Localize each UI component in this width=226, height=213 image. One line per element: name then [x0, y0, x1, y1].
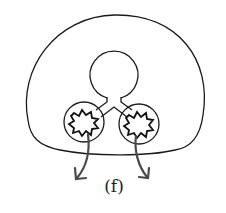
right-starburst-icon: [124, 112, 153, 138]
left-starburst-icon: [69, 110, 98, 136]
figure-label: (f): [104, 176, 124, 196]
y-shaped-tube: [96, 97, 132, 117]
left-circle: [64, 102, 104, 142]
central-circle: [90, 51, 138, 98]
right-circle: [119, 104, 159, 144]
diagram-canvas: (f): [0, 0, 226, 213]
outer-membrane: [26, 15, 204, 155]
